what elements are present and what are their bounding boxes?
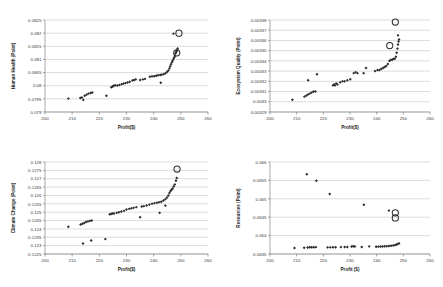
- data-point: [151, 202, 154, 205]
- data-point: [158, 201, 161, 204]
- data-point: [387, 209, 390, 212]
- data-point: [113, 212, 116, 215]
- y-tick-label: 0.00335: [251, 48, 267, 53]
- data-point: [135, 206, 138, 209]
- y-tick-label: 0.00338: [251, 18, 267, 23]
- y-tick-label: 0.123: [31, 243, 43, 248]
- y-tick-label: 0.1265: [28, 185, 42, 190]
- data-point: [120, 210, 123, 213]
- x-tick-label: 220: [320, 258, 328, 263]
- data-point: [397, 43, 400, 46]
- x-axis-title: Profit($): [118, 267, 136, 272]
- data-point: [329, 246, 332, 249]
- x-tick-label: 260: [204, 258, 212, 263]
- x-tick-label: 230: [123, 116, 131, 121]
- chart-panel-human-health: 0.0790.07950.080.08050.0810.08150.0820.0…: [0, 0, 222, 144]
- y-tick-label: 0.00332: [251, 79, 267, 84]
- data-point: [305, 173, 308, 176]
- y-tick-label: 0.066: [256, 160, 268, 165]
- data-point: [365, 67, 368, 70]
- data-point: [315, 179, 318, 182]
- chart-panel-climate-change: 0.12250.1230.12350.1240.12450.1250.12550…: [0, 144, 222, 287]
- data-point: [346, 245, 349, 248]
- data-point: [172, 32, 175, 35]
- y-tick-label: 0.0033: [253, 99, 267, 104]
- y-tick-label: 0.1235: [28, 235, 42, 240]
- data-point: [67, 225, 70, 228]
- x-axis-title: Profit($): [341, 125, 359, 130]
- y-tick-label: 0.1245: [28, 218, 42, 223]
- data-point: [142, 205, 145, 208]
- x-tick-label: 220: [96, 116, 104, 121]
- y-axis-title: Human Health (Point): [11, 42, 16, 89]
- x-tick-label: 210: [69, 258, 77, 263]
- data-point: [82, 242, 85, 245]
- x-axis-title: Profit($): [118, 125, 136, 130]
- y-axis-title: Climate Change (Point): [11, 182, 16, 233]
- x-tick-label: 210: [293, 258, 301, 263]
- data-point: [326, 246, 329, 249]
- data-point: [314, 246, 317, 249]
- y-tick-label: 0.1275: [28, 168, 42, 173]
- data-point: [153, 202, 156, 205]
- y-tick-label: 0.082: [31, 31, 43, 36]
- data-point: [90, 239, 93, 242]
- data-point: [145, 204, 148, 207]
- x-tick-label: 200: [266, 258, 274, 263]
- data-point: [67, 97, 70, 100]
- data-point: [293, 247, 296, 250]
- data-point: [386, 63, 389, 66]
- data-point: [314, 90, 317, 93]
- y-tick-label: 0.065: [256, 197, 268, 202]
- data-point: [343, 246, 346, 249]
- x-tick-label: 240: [150, 258, 158, 263]
- data-point: [139, 216, 142, 219]
- y-axis-title: Ecosystem Quality (Point): [236, 37, 241, 94]
- y-tick-label: 0.064: [256, 233, 268, 238]
- y-tick-label: 0.00334: [251, 59, 267, 64]
- y-tick-label: 0.00333: [251, 69, 267, 74]
- data-point: [117, 211, 120, 214]
- data-point: [104, 238, 107, 241]
- data-point: [315, 73, 318, 76]
- highlighted-point-circle: [174, 166, 180, 172]
- data-point: [90, 219, 93, 222]
- y-tick-label: 0.1225: [28, 252, 42, 257]
- data-point: [397, 34, 400, 37]
- x-tick-label: 260: [426, 258, 434, 263]
- data-point: [175, 177, 178, 180]
- y-tick-label: 0.1255: [28, 202, 42, 207]
- y-tick-label: 0.081: [31, 57, 43, 62]
- x-tick-label: 200: [266, 116, 274, 121]
- y-tick-label: 0.126: [31, 193, 43, 198]
- x-tick-label: 250: [400, 258, 408, 263]
- x-tick-label: 240: [150, 116, 158, 121]
- data-point: [125, 208, 128, 211]
- data-point: [362, 203, 365, 206]
- x-tick-label: 210: [69, 116, 77, 121]
- y-tick-label: 0.0805: [28, 70, 42, 75]
- data-point: [105, 94, 108, 97]
- y-axis-title: Resources (Point): [236, 188, 241, 228]
- y-tick-label: 0.0645: [253, 215, 267, 220]
- x-tick-label: 230: [346, 258, 354, 263]
- y-tick-label: 0.079: [31, 110, 43, 115]
- y-tick-label: 0.128: [31, 160, 43, 165]
- data-point: [291, 98, 294, 101]
- scatter-plot-grid: 0.0790.07950.080.08050.0810.08150.0820.0…: [0, 0, 443, 287]
- y-tick-label: 0.124: [31, 227, 43, 232]
- y-tick-label: 0.0655: [253, 178, 267, 183]
- data-point: [140, 205, 143, 208]
- resources-scatter-chart: 0.06350.0640.06450.0650.06550.0662002102…: [222, 144, 443, 287]
- y-tick-label: 0.125: [31, 210, 43, 215]
- data-point: [115, 211, 118, 214]
- x-tick-label: 250: [177, 116, 185, 121]
- y-tick-label: 0.00337: [251, 28, 267, 33]
- data-point: [328, 193, 331, 196]
- y-tick-label: 0.08: [33, 83, 42, 88]
- x-tick-label: 210: [293, 116, 301, 121]
- x-axis-title: Profit ($): [341, 267, 360, 272]
- data-point: [395, 51, 398, 54]
- y-tick-label: 0.127: [31, 176, 43, 181]
- data-point: [339, 246, 342, 249]
